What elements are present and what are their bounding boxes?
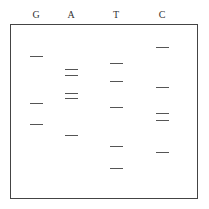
lane-label-c: C [152, 9, 172, 20]
band-a-4 [65, 135, 78, 136]
band-a-0 [65, 69, 78, 70]
band-t-4 [110, 168, 123, 169]
band-a-3 [65, 98, 78, 99]
gel-frame [10, 24, 198, 199]
lane-label-t: T [106, 9, 126, 20]
band-c-3 [156, 120, 169, 121]
lane-label-g: G [26, 9, 46, 20]
band-t-0 [110, 63, 123, 64]
band-t-1 [110, 81, 123, 82]
band-g-0 [30, 56, 43, 57]
band-c-2 [156, 113, 169, 114]
lane-label-a: A [61, 9, 81, 20]
band-c-4 [156, 152, 169, 153]
band-c-1 [156, 87, 169, 88]
band-a-1 [65, 75, 78, 76]
band-c-0 [156, 47, 169, 48]
band-a-2 [65, 93, 78, 94]
band-t-2 [110, 107, 123, 108]
band-g-1 [30, 103, 43, 104]
band-t-3 [110, 146, 123, 147]
band-g-2 [30, 124, 43, 125]
